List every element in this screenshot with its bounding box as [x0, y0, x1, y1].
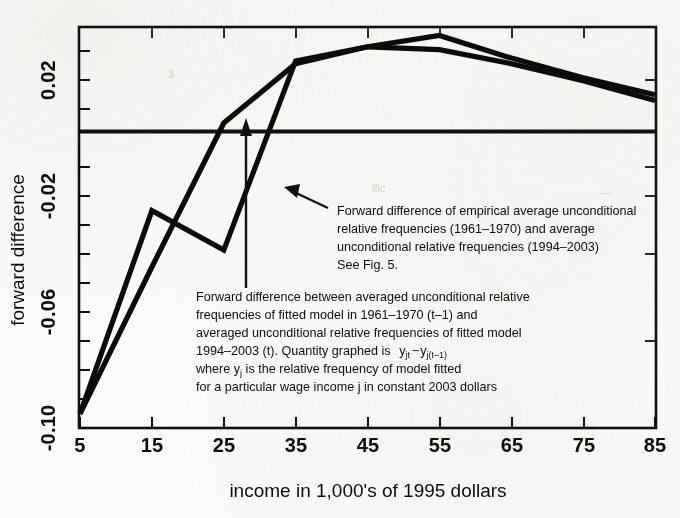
y-tick-label: -0.02 — [37, 173, 59, 220]
y-axis-right-ticks — [645, 80, 656, 341]
figure-root: 5 15 25 35 45 55 65 75 85 0.02 -0.02 -0.… — [0, 0, 680, 518]
formula-sub-2: j(t–1) — [426, 350, 448, 360]
x-axis-top-ticks — [152, 27, 584, 38]
empirical-leader-arrow — [284, 184, 328, 208]
x-tick-label: 15 — [141, 434, 164, 456]
formula-sub-1: jt — [404, 350, 410, 360]
x-tick-label: 25 — [213, 434, 236, 456]
fitted-model-annotation: Forward difference between averaged unco… — [195, 290, 530, 394]
empirical-series-annotation: Forward difference of empirical average … — [337, 204, 636, 272]
annotation-line: unconditional relative frequencies (1994… — [337, 240, 599, 254]
y-tick-label: 0.02 — [37, 60, 59, 100]
annotation-line: Forward difference between averaged unco… — [196, 290, 530, 304]
annotation-line-with-subscript: where yj is the relative frequency of mo… — [195, 362, 461, 378]
y-axis-title: forward difference — [7, 174, 28, 326]
y-tick-labels: 0.02 -0.02 -0.06 -0.10 — [37, 60, 59, 451]
y-axis-ticks — [79, 51, 90, 399]
ghost-text: — — [600, 186, 611, 198]
chart-svg: 5 15 25 35 45 55 65 75 85 0.02 -0.02 -0.… — [0, 0, 680, 518]
annotation-line: for a particular wage income j in consta… — [196, 380, 497, 394]
ghost-text: 3 — [168, 68, 174, 80]
formula-minus: − — [412, 344, 419, 358]
x-tick-label: 5 — [74, 434, 85, 456]
annotation-line-text: 1994–2003 (t). Quantity graphed is — [196, 344, 391, 358]
x-tick-label: 55 — [429, 434, 452, 456]
x-axis-ticks — [80, 417, 655, 428]
ghost-text: ific — [372, 182, 386, 194]
annotation-line-text-a: where y — [195, 362, 241, 376]
x-tick-label: 75 — [573, 434, 596, 456]
annotation-line-text-b: is the relative frequency of model fitte… — [242, 362, 461, 376]
annotation-line: See Fig. 5. — [337, 258, 398, 272]
y-tick-label: -0.10 — [37, 405, 59, 452]
annotation-line: averaged unconditional relative frequenc… — [196, 326, 522, 340]
x-tick-label: 85 — [644, 434, 667, 456]
y-tick-label: -0.06 — [37, 289, 59, 336]
x-tick-label: 45 — [357, 434, 380, 456]
annotation-line: Forward difference of empirical average … — [337, 204, 636, 218]
annotation-line: relative frequencies (1961–1970) and ave… — [337, 222, 595, 236]
x-tick-labels: 5 15 25 35 45 55 65 75 85 — [74, 434, 666, 456]
x-axis-title: income in 1,000's of 1995 dollars — [229, 480, 506, 501]
x-tick-label: 35 — [285, 434, 308, 456]
annotation-line: frequencies of fitted model in 1961–1970… — [196, 308, 477, 322]
x-tick-label: 65 — [501, 434, 524, 456]
annotation-line-with-formula: 1994–2003 (t). Quantity graphed is yjt−y… — [196, 344, 447, 360]
